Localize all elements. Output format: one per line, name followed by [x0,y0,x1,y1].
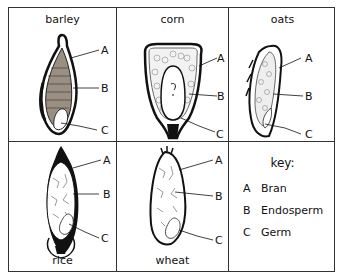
key-item: BEndosperm [243,204,323,217]
legend-key: key: ABran BEndosperm CGerm [229,142,336,273]
cell-rice: A B C rice [9,142,116,273]
grain-title: rice [9,254,116,267]
grain-diagram-grid: barley A B C corn [8,7,335,272]
label-germ: C [216,128,224,141]
key-item: ABran [243,182,287,195]
label-germ: C [101,232,109,245]
key-letter: A [243,182,261,195]
corn-kernel-illustration: A B C [117,8,228,141]
cell-oats: oats A B C [229,8,336,141]
label-bran: A [305,52,313,65]
label-germ: C [101,124,109,137]
barley-kernel-illustration: A B C [9,8,116,141]
label-bran: A [215,154,223,167]
key-part: Bran [261,182,287,195]
key-letter: B [243,204,261,217]
label-bran: A [101,44,109,57]
cell-wheat: A B C wheat [117,142,228,273]
key-part: Endosperm [261,204,323,217]
label-bran: A [217,52,225,65]
key-item: CGerm [243,226,291,239]
oats-kernel-illustration: A B C [229,8,336,141]
grain-title: wheat [117,254,228,267]
label-germ: C [305,128,313,141]
key-title: key: [229,156,336,170]
label-endosperm: B [101,82,109,95]
key-part: Germ [261,226,291,239]
cell-barley: barley A B C [9,8,116,141]
cell-corn: corn A B C [117,8,228,141]
label-germ: C [215,234,223,247]
label-endosperm: B [305,90,313,103]
key-letter: C [243,226,261,239]
label-endosperm: B [217,90,225,103]
label-endosperm: B [215,190,223,203]
label-bran: A [103,154,111,167]
label-endosperm: B [103,188,111,201]
